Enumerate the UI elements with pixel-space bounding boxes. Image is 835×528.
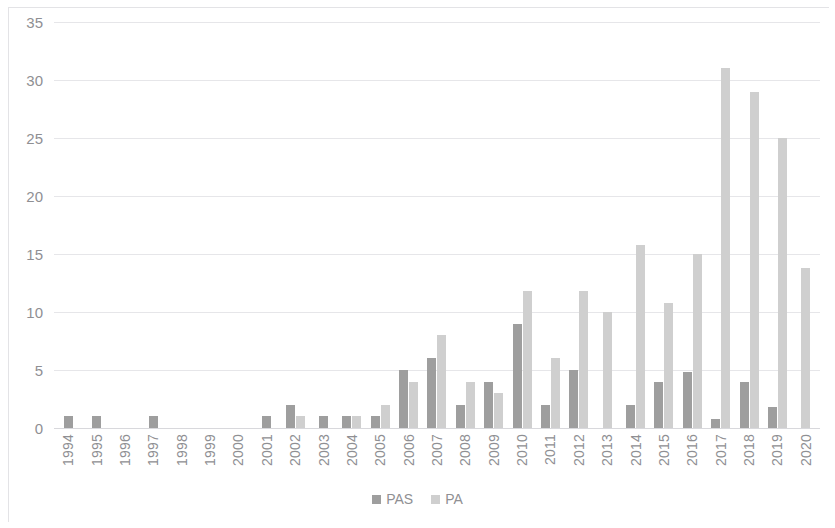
bar-pa-2004[interactable] — [352, 416, 361, 428]
bar-group — [253, 22, 281, 428]
legend-swatch-icon — [431, 495, 440, 504]
legend-label: PA — [445, 492, 463, 506]
x-axis-tick-label: 2000 — [231, 434, 245, 466]
bar-chart: 35302520151050 1994199519961997199819992… — [0, 0, 835, 528]
bar-group — [196, 22, 224, 428]
x-axis-tick-label: 2004 — [345, 434, 359, 466]
bar-group — [678, 22, 706, 428]
bar-pas-1994[interactable] — [64, 416, 73, 428]
bar-pa-2005[interactable] — [381, 405, 390, 428]
bar-pas-2017[interactable] — [711, 419, 720, 428]
bar-group — [621, 22, 649, 428]
bar-group — [167, 22, 195, 428]
bar-group — [82, 22, 110, 428]
bar-pas-2014[interactable] — [626, 405, 635, 428]
bar-group — [536, 22, 564, 428]
x-axis-tick-label: 1997 — [146, 434, 160, 466]
bar-group-bars — [309, 22, 337, 428]
bar-pa-2019[interactable] — [778, 138, 787, 428]
x-axis-tick-label: 2019 — [770, 434, 784, 466]
plot-area: 35302520151050 — [54, 22, 820, 428]
bar-pas-2019[interactable] — [768, 407, 777, 428]
bar-pa-2002[interactable] — [296, 416, 305, 428]
bar-group-bars — [196, 22, 224, 428]
y-axis-tick-label: 10 — [26, 305, 43, 320]
x-axis-tick-label: 2001 — [260, 434, 274, 466]
bar-pas-2004[interactable] — [342, 416, 351, 428]
x-axis-tick-label: 2016 — [685, 434, 699, 466]
bar-pas-2012[interactable] — [569, 370, 578, 428]
bar-pas-2010[interactable] — [513, 324, 522, 428]
bar-pas-1995[interactable] — [92, 416, 101, 428]
bar-group — [111, 22, 139, 428]
bar-pas-2003[interactable] — [319, 416, 328, 428]
bar-group — [763, 22, 791, 428]
bar-group — [366, 22, 394, 428]
x-axis: 1994199519961997199819992000200120022003… — [54, 430, 820, 490]
y-axis-tick-label: 15 — [26, 247, 43, 262]
bar-pa-2013[interactable] — [603, 312, 612, 428]
bar-group-bars — [650, 22, 678, 428]
bar-group-bars — [423, 22, 451, 428]
bar-pa-2020[interactable] — [801, 268, 810, 428]
bar-pas-2006[interactable] — [399, 370, 408, 428]
bar-group — [451, 22, 479, 428]
bar-group — [394, 22, 422, 428]
bar-pa-2011[interactable] — [551, 358, 560, 428]
x-axis-tick-label: 2007 — [430, 434, 444, 466]
y-axis-tick-label: 5 — [35, 363, 43, 378]
bar-pas-2009[interactable] — [484, 382, 493, 428]
bar-pas-2007[interactable] — [427, 358, 436, 428]
chart-legend: PASPA — [0, 492, 835, 506]
bar-pas-2008[interactable] — [456, 405, 465, 428]
y-axis-tick-label: 25 — [26, 131, 43, 146]
bar-group-bars — [565, 22, 593, 428]
bar-group — [480, 22, 508, 428]
bar-pa-2014[interactable] — [636, 245, 645, 428]
bar-group-bars — [394, 22, 422, 428]
bar-group-bars — [792, 22, 820, 428]
bar-group — [593, 22, 621, 428]
bar-group-bars — [707, 22, 735, 428]
bar-pas-2011[interactable] — [541, 405, 550, 428]
bar-pas-1997[interactable] — [149, 416, 158, 428]
bar-pa-2009[interactable] — [494, 393, 503, 428]
bar-pas-2002[interactable] — [286, 405, 295, 428]
y-axis-tick-label: 0 — [35, 421, 43, 436]
bar-pas-2001[interactable] — [262, 416, 271, 428]
bar-pa-2006[interactable] — [409, 382, 418, 428]
bar-group — [508, 22, 536, 428]
legend-item-pas[interactable]: PAS — [372, 492, 413, 506]
legend-item-pa[interactable]: PA — [431, 492, 463, 506]
bar-group-bars — [678, 22, 706, 428]
legend-label: PAS — [386, 492, 413, 506]
bar-group-bars — [735, 22, 763, 428]
bar-pa-2012[interactable] — [579, 291, 588, 428]
bar-group-bars — [54, 22, 82, 428]
bar-group-bars — [621, 22, 649, 428]
bar-pa-2010[interactable] — [523, 291, 532, 428]
x-axis-tick-label: 2003 — [317, 434, 331, 466]
x-axis-tick-label: 2017 — [714, 434, 728, 466]
bar-group — [423, 22, 451, 428]
bar-group-bars — [536, 22, 564, 428]
bar-group-bars — [167, 22, 195, 428]
bar-pas-2018[interactable] — [740, 382, 749, 428]
bar-pa-2017[interactable] — [721, 68, 730, 428]
bar-group-bars — [224, 22, 252, 428]
y-axis-tick-label: 35 — [26, 15, 43, 30]
bar-pas-2015[interactable] — [654, 382, 663, 428]
bar-pa-2015[interactable] — [664, 303, 673, 428]
bar-pa-2018[interactable] — [750, 92, 759, 428]
bar-group — [565, 22, 593, 428]
y-axis-tick-label: 20 — [26, 189, 43, 204]
bar-pa-2007[interactable] — [437, 335, 446, 428]
bar-group-bars — [82, 22, 110, 428]
bar-pa-2008[interactable] — [466, 382, 475, 428]
bar-group-bars — [281, 22, 309, 428]
bar-group — [281, 22, 309, 428]
bar-group-bars — [253, 22, 281, 428]
bar-pas-2016[interactable] — [683, 372, 692, 428]
bar-pas-2005[interactable] — [371, 416, 380, 428]
bar-pa-2016[interactable] — [693, 254, 702, 428]
